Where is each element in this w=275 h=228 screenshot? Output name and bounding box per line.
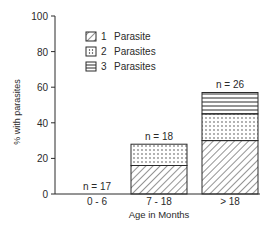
sample-size-label: n = 26 [216, 79, 245, 90]
bar-group-0-6: n = 17 [83, 181, 112, 192]
bar-segment-3-parasites [202, 93, 258, 114]
sample-size-label: n = 17 [83, 181, 112, 192]
y-axis-title: % with parasites [12, 79, 22, 145]
lines-swatch-icon [86, 62, 96, 71]
x-tick-label: 7 - 18 [146, 196, 172, 207]
x-tick-label: 0 - 6 [87, 196, 107, 207]
x-tick-label: > 18 [220, 196, 240, 207]
legend-label: Parasite [114, 31, 151, 42]
sample-size-label: n = 18 [145, 131, 174, 142]
y-tick-label: 20 [37, 153, 49, 164]
bar-segment-2-parasites [202, 114, 258, 141]
legend-label: Parasites [114, 46, 156, 57]
bar-segment-2-parasites [131, 144, 187, 165]
y-tick-label: 100 [31, 11, 48, 22]
legend-number: 3 [101, 61, 107, 72]
y-tick-label: 80 [37, 47, 49, 58]
hatch-swatch-icon [86, 32, 96, 41]
bar-group-over-18: n = 26 [202, 79, 258, 194]
y-tick-label: 60 [37, 82, 49, 93]
bar-segment-1-parasite [131, 166, 187, 195]
legend-label: Parasites [114, 61, 156, 72]
y-tick-label: 40 [37, 118, 49, 129]
legend-item-2-parasites: 2 Parasites [86, 46, 156, 57]
legend: 1 Parasite 2 Parasites 3 Parasites [86, 31, 156, 72]
y-axis: 100 80 60 40 20 0 % with parasites [12, 11, 55, 200]
legend-item-1-parasite: 1 Parasite [86, 31, 151, 42]
dots-swatch-icon [86, 47, 96, 56]
legend-number: 1 [101, 31, 107, 42]
bar-group-7-18: n = 18 [131, 131, 187, 194]
stacked-bar-chart: 100 80 60 40 20 0 % with parasites 0 - 6… [0, 0, 275, 228]
x-axis: 0 - 6 7 - 18 > 18 Age in Months [55, 194, 260, 220]
legend-number: 2 [101, 46, 107, 57]
legend-item-3-parasites: 3 Parasites [86, 61, 156, 72]
bar-segment-1-parasite [202, 141, 258, 194]
x-axis-title: Age in Months [129, 209, 190, 220]
y-tick-label: 0 [42, 189, 48, 200]
